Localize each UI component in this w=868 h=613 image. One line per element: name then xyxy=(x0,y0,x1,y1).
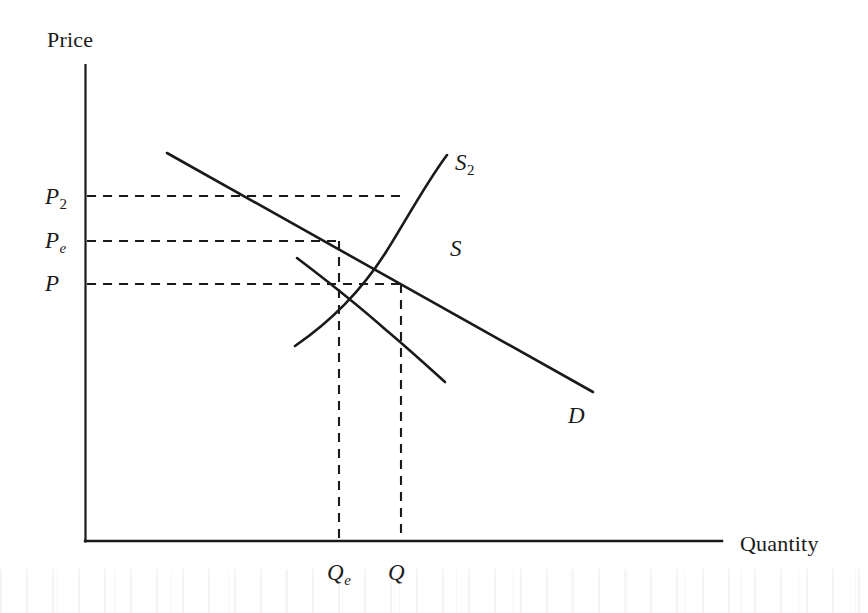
supply-demand-diagram: Price Quantity P2 Pe P Qe Q S2 S D xyxy=(0,0,868,613)
supply-curve-s-path xyxy=(297,258,445,382)
y-tick-pe-subscript: e xyxy=(60,240,67,256)
guide-lines xyxy=(87,196,402,540)
curve-s2-base: S xyxy=(455,150,467,175)
x-tick-label-qe: Qe xyxy=(327,560,350,586)
x-tick-q-base: Q xyxy=(388,560,405,585)
y-tick-label-pe: Pe xyxy=(45,228,66,254)
y-tick-p-base: P xyxy=(45,271,59,296)
diagram-canvas xyxy=(0,0,868,613)
demand-curve-d-path xyxy=(167,153,593,392)
y-tick-p2-subscript: 2 xyxy=(60,196,68,212)
curve-label-d: D xyxy=(568,403,585,429)
y-tick-label-p: P xyxy=(45,271,59,297)
curve-label-s: S xyxy=(450,236,462,262)
axis-lines xyxy=(85,65,722,542)
y-tick-pe-base: P xyxy=(45,228,59,253)
y-axis-title: Price xyxy=(47,27,93,53)
y-tick-p2-base: P xyxy=(45,184,59,209)
x-tick-qe-base: Q xyxy=(327,560,344,585)
curve-paths xyxy=(167,153,593,392)
x-axis-title: Quantity xyxy=(740,531,819,557)
curve-s2-subscript: 2 xyxy=(467,162,475,178)
x-tick-qe-subscript: e xyxy=(344,572,351,588)
curve-label-s2: S2 xyxy=(455,150,474,176)
y-tick-label-p2: P2 xyxy=(45,184,67,210)
x-tick-label-q: Q xyxy=(388,560,405,586)
